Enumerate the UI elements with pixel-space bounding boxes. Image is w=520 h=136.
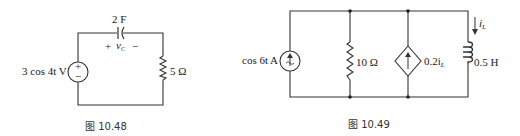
node-dot — [348, 9, 352, 13]
capacitor-plus: + — [105, 40, 111, 52]
resistor-label: 10 Ω — [356, 56, 378, 68]
resistor — [347, 42, 353, 80]
figure-caption: 图 10.49 — [348, 119, 390, 130]
wire — [78, 80, 163, 105]
figure-caption: 图 10.48 — [85, 121, 127, 132]
inductor-label: 0.5 H — [474, 56, 499, 68]
voltage-source-minus: − — [75, 70, 81, 82]
node-dot — [348, 95, 352, 99]
wire — [123, 33, 163, 56]
node-dot — [406, 95, 410, 99]
capacitor-label: 2 F — [112, 13, 126, 25]
wire — [290, 11, 468, 51]
voltage-source-label: 3 cos 4t V — [22, 65, 67, 77]
dependent-source-label: 0.2iL — [424, 55, 445, 69]
capacitor-voltage-label: vC — [116, 39, 126, 52]
inductor — [464, 42, 473, 64]
dependent-current-source — [395, 46, 421, 76]
figure-10-48: 2 F + vC − + − 3 cos 4t V 5 Ω 图 10.48 — [22, 13, 186, 132]
node-dot — [406, 9, 410, 13]
resistor — [160, 56, 166, 80]
current-source-label: cos 6t A — [242, 54, 278, 66]
capacitor-minus: − — [132, 40, 138, 52]
current-arrow-icon — [472, 17, 478, 35]
circuit-diagrams: 2 F + vC − + − 3 cos 4t V 5 Ω 图 10.48 10… — [0, 0, 520, 136]
current-source — [280, 51, 300, 71]
figure-10-49: 10 Ω 0.2iL 0.5 H iL cos 6t A — [242, 9, 499, 130]
resistor-label: 5 Ω — [170, 65, 186, 77]
inductor-current-label: iL — [479, 17, 486, 31]
